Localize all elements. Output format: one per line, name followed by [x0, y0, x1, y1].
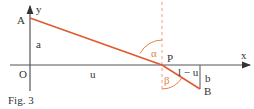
- label-B: B: [204, 85, 211, 97]
- label-b: b: [205, 72, 211, 84]
- label-l-minus-u: l − u: [178, 66, 199, 78]
- label-O: O: [19, 68, 27, 80]
- label-x: x: [241, 49, 247, 61]
- figure-caption: Fig. 3: [8, 94, 34, 106]
- light-path: [30, 18, 200, 89]
- figure-3-diagram: A y a O u α P x β l − u b B Fig. 3: [0, 0, 254, 109]
- label-alpha: α: [151, 47, 157, 59]
- label-u: u: [90, 68, 96, 80]
- label-a: a: [36, 38, 41, 50]
- label-P: P: [167, 52, 173, 64]
- label-y: y: [36, 3, 42, 15]
- label-beta: β: [164, 74, 170, 86]
- label-A: A: [17, 14, 25, 26]
